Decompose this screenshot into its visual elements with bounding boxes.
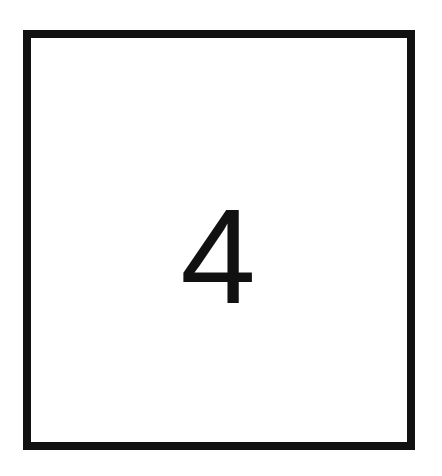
number-card: 4 xyxy=(23,30,415,450)
card-number: 4 xyxy=(29,188,407,324)
